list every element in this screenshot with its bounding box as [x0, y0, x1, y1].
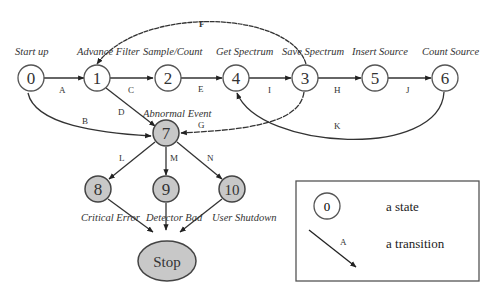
legend-state-text: a state: [386, 199, 419, 214]
state-label-insert-source: Insert Source: [351, 46, 408, 57]
svg-text:10: 10: [225, 182, 240, 198]
edge-label-K: K: [334, 121, 341, 131]
svg-text:Stop: Stop: [153, 254, 181, 270]
edge-L: [109, 142, 155, 179]
svg-text:6: 6: [441, 69, 450, 88]
legend: 0 a state A a transition: [296, 181, 479, 281]
state-9: 9: [153, 176, 179, 202]
state-6: 6: [432, 65, 458, 91]
edge-N: [177, 142, 222, 179]
svg-text:8: 8: [94, 180, 103, 199]
edge-label-D: D: [118, 107, 125, 117]
svg-text:4: 4: [232, 69, 241, 88]
state-stop: Stop: [138, 241, 196, 281]
state-label-start-up: Start up: [15, 46, 49, 57]
svg-text:9: 9: [162, 180, 171, 199]
state-label-abnormal-event: Abnormal Event: [142, 108, 213, 119]
edge-label-B: B: [82, 116, 88, 126]
state-0: 0: [18, 65, 44, 91]
edge-label-L: L: [119, 153, 125, 163]
svg-text:0: 0: [27, 69, 36, 88]
state-10: 10: [219, 176, 245, 202]
state-4: 4: [223, 65, 249, 91]
state-label-get-spectrum: Get Spectrum: [216, 46, 274, 57]
state-3: 3: [292, 65, 318, 91]
edge-label-M: M: [170, 153, 178, 163]
legend-transition-text: a transition: [386, 236, 445, 251]
svg-text:A: A: [340, 237, 347, 247]
svg-text:5: 5: [371, 69, 380, 88]
state-5: 5: [362, 65, 388, 91]
state-label-detector-bad: Detector Bad: [145, 212, 203, 223]
edge-label-J: J: [406, 85, 410, 95]
legend-state-symbol: 0: [314, 193, 340, 219]
edge-label-F: F: [199, 19, 205, 29]
state-label-save-spectrum: Save Spectrum: [282, 46, 345, 57]
edge-K: [237, 92, 444, 139]
state-label-critical-error: Critical Error: [81, 212, 141, 223]
state-8: 8: [85, 176, 111, 202]
edge-label-N: N: [207, 153, 214, 163]
state-label-count-source: Count Source: [422, 46, 479, 57]
state-7: 7: [153, 120, 179, 146]
svg-text:7: 7: [162, 124, 171, 143]
edge-B: [28, 93, 151, 136]
edge-label-H: H: [334, 85, 341, 95]
edge-label-C: C: [128, 85, 134, 95]
edge-label-I: I: [268, 85, 271, 95]
svg-text:2: 2: [164, 69, 173, 88]
state-diagram: A B C D E F G H I J K L M N 0 1 2 4: [0, 0, 493, 298]
edge-label-G: G: [198, 120, 205, 130]
edge-label-E: E: [198, 84, 204, 94]
state-label-sample-count: Sample/Count: [143, 46, 204, 57]
edge-label-A: A: [59, 85, 66, 95]
svg-text:3: 3: [301, 69, 310, 88]
state-1: 1: [84, 65, 110, 91]
state-label-user-shutdown: User Shutdown: [212, 212, 276, 223]
svg-text:1: 1: [93, 69, 102, 88]
state-2: 2: [155, 65, 181, 91]
svg-text:0: 0: [324, 199, 331, 214]
state-label-advance-filter: Advance Filter: [76, 46, 141, 57]
